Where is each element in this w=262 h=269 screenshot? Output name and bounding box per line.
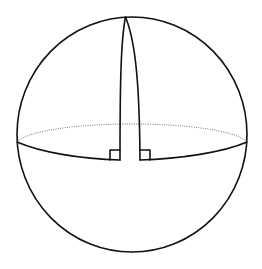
equator-front-right (140, 142, 247, 160)
left-right-angle-marker (110, 150, 120, 160)
right-right-angle-marker (140, 150, 150, 160)
left-meridian (120, 17, 126, 160)
sphere-diagram (0, 0, 262, 269)
sphere-outline (17, 17, 247, 252)
equator-back-dotted (17, 124, 247, 142)
right-meridian (126, 17, 141, 160)
equator-front-left (17, 142, 120, 160)
